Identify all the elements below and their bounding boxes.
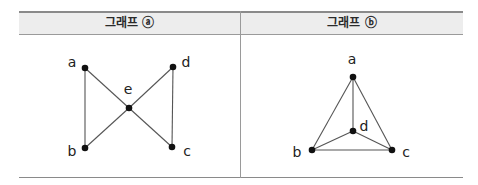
vertex-label-b: b: [68, 143, 77, 159]
vertex-d: [350, 128, 357, 135]
edge-a-c: [353, 77, 392, 150]
vertex-label-b: b: [293, 144, 302, 160]
vertex-c: [169, 144, 176, 151]
edge-e-c: [129, 108, 172, 147]
graph-b: adbc: [293, 51, 410, 160]
vertex-label-d: d: [182, 54, 191, 70]
vertex-a: [350, 74, 357, 81]
vertex-b: [82, 145, 89, 152]
edge-b-d: [312, 131, 353, 150]
vertex-c: [389, 147, 396, 154]
vertex-b: [309, 147, 316, 154]
vertex-label-a: a: [68, 54, 77, 70]
vertex-label-c: c: [183, 143, 191, 159]
vertex-label-d: d: [360, 118, 369, 134]
graph-a: adebc: [68, 54, 191, 159]
graphs-canvas: adebc adbc: [0, 0, 478, 185]
vertex-label-c: c: [402, 144, 410, 160]
edge-a-e: [85, 68, 129, 108]
vertex-d: [170, 64, 177, 71]
edge-a-b: [312, 77, 353, 150]
edge-e-b: [85, 108, 129, 148]
vertex-a: [82, 65, 89, 72]
edge-d-e: [129, 67, 173, 108]
vertex-label-a: a: [348, 51, 357, 67]
vertex-label-e: e: [124, 81, 133, 97]
vertex-e: [126, 105, 133, 112]
edge-d-c: [172, 67, 173, 147]
